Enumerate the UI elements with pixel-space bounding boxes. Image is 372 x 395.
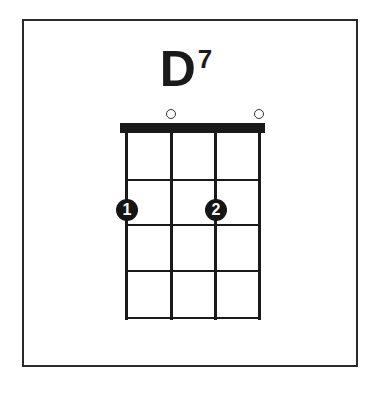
chord-name: D	[160, 41, 196, 97]
chord-superscript: 7	[198, 44, 212, 74]
string-4	[258, 133, 261, 320]
string-2	[170, 133, 173, 320]
fret-3	[125, 270, 261, 272]
fret-4	[125, 317, 261, 319]
finger-dot-2: 2	[205, 199, 227, 221]
open-string-marker-2	[166, 109, 176, 119]
chord-title: D7	[0, 44, 372, 102]
fret-2	[125, 224, 261, 226]
fret-1	[125, 179, 261, 181]
finger-dot-1: 1	[116, 199, 138, 221]
nut	[120, 123, 265, 133]
open-string-marker-4	[254, 109, 264, 119]
string-1	[125, 133, 128, 320]
string-3	[214, 133, 217, 320]
